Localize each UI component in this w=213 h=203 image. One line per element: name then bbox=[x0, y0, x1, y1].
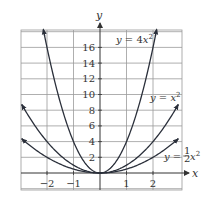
parabola-chart: x y −2−112246810121416 y = 4x2 y = x2 y … bbox=[0, 0, 213, 203]
label-half-x2: y = 1 2 x2 bbox=[163, 145, 200, 164]
y-tick-label: 14 bbox=[82, 58, 95, 69]
y-tick-label: 12 bbox=[82, 73, 95, 84]
curve-arrow-icon bbox=[22, 139, 23, 140]
label-x2: y = x2 bbox=[149, 91, 181, 103]
x-tick-label: −2 bbox=[40, 178, 55, 189]
x-tick-label: 1 bbox=[123, 178, 129, 189]
y-tick-label: 4 bbox=[89, 136, 95, 147]
curve-arrow-icon bbox=[22, 105, 23, 107]
y-tick-label: 10 bbox=[82, 89, 95, 100]
y-tick-label: 6 bbox=[89, 120, 95, 131]
svg-text:y =: y = bbox=[163, 151, 181, 162]
x-tick-label: −1 bbox=[66, 178, 81, 189]
x-tick-label: 2 bbox=[150, 178, 156, 189]
y-tick-label: 8 bbox=[89, 105, 95, 116]
svg-text:x2: x2 bbox=[190, 150, 200, 162]
curve-arrow-icon bbox=[177, 105, 178, 107]
y-tick-label: 2 bbox=[89, 152, 95, 163]
curve-arrow-icon bbox=[177, 139, 178, 140]
y-tick-label: 16 bbox=[82, 42, 95, 53]
y-axis-label: y bbox=[95, 9, 103, 22]
tick-labels: −2−112246810121416 bbox=[40, 42, 157, 189]
label-4x2: y = 4x2 bbox=[115, 33, 153, 45]
x-axis-label: x bbox=[192, 167, 199, 180]
